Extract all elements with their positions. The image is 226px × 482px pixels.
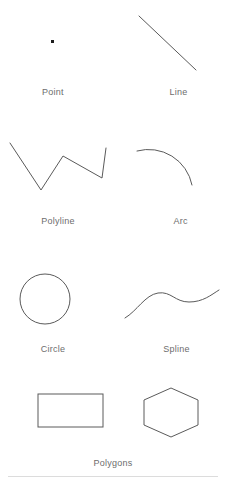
geometry-primitives-panel: Point Line Polyline Arc bbox=[0, 0, 226, 482]
caption-polyline: Polyline bbox=[5, 216, 111, 226]
primitive-cell-circle[interactable]: Circle bbox=[0, 257, 113, 367]
primitive-cell-polygons[interactable]: Polygons bbox=[0, 381, 226, 482]
point-icon bbox=[51, 40, 54, 43]
polygon-rectangle-shape bbox=[0, 381, 113, 451]
rectangle-icon bbox=[0, 381, 113, 451]
line-shape bbox=[113, 0, 226, 80]
spline-shape bbox=[113, 257, 226, 337]
caption-line: Line bbox=[122, 87, 226, 97]
point-shape bbox=[0, 0, 113, 80]
primitive-cell-point[interactable]: Point bbox=[0, 0, 113, 110]
primitive-cell-spline[interactable]: Spline bbox=[113, 257, 226, 367]
hexagon-icon bbox=[113, 381, 226, 451]
caption-circle: Circle bbox=[0, 344, 106, 354]
caption-polygons: Polygons bbox=[0, 458, 226, 468]
primitive-cell-polyline[interactable]: Polyline bbox=[0, 129, 113, 239]
caption-spline: Spline bbox=[120, 344, 226, 354]
caption-point: Point bbox=[0, 87, 106, 97]
panel-bottom-divider bbox=[8, 476, 218, 477]
polyline-icon bbox=[0, 129, 113, 209]
polyline-shape bbox=[0, 129, 113, 209]
spline-icon bbox=[113, 257, 226, 337]
caption-arc: Arc bbox=[124, 216, 226, 226]
arc-icon bbox=[113, 129, 226, 209]
primitive-cell-line[interactable]: Line bbox=[113, 0, 226, 110]
circle-shape bbox=[0, 257, 113, 337]
arc-shape bbox=[113, 129, 226, 209]
line-icon bbox=[113, 0, 226, 80]
circle-icon bbox=[0, 257, 113, 337]
polygon-hexagon-shape bbox=[113, 381, 226, 451]
primitive-cell-arc[interactable]: Arc bbox=[113, 129, 226, 239]
